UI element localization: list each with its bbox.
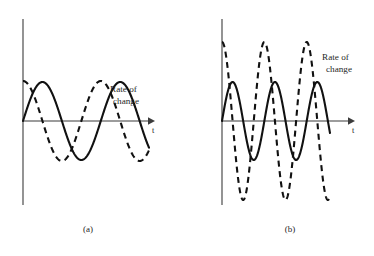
panel-a: t Rate of change (a) — [23, 19, 155, 234]
panel-a-annotation-line1: Rate of — [110, 84, 138, 94]
figure-root: t Rate of change (a) t Rate of change (b… — [0, 0, 374, 256]
panel-b-caption: (b) — [285, 224, 296, 234]
panel-b: t Rate of change (b) — [222, 19, 355, 234]
panel-a-annotation-line2: change — [113, 96, 139, 106]
panel-a-x-axis-label: t — [152, 126, 155, 135]
panel-b-annotation-line2: change — [326, 64, 352, 74]
figure-canvas: t Rate of change (a) t Rate of change (b… — [0, 0, 374, 256]
panel-b-annotation-line1: Rate of — [322, 52, 350, 62]
panel-a-caption: (a) — [83, 224, 93, 234]
panel-b-x-axis-arrow-icon — [348, 117, 355, 125]
panel-b-x-axis-label: t — [352, 126, 355, 135]
panel-a-x-axis-arrow-icon — [148, 117, 155, 125]
